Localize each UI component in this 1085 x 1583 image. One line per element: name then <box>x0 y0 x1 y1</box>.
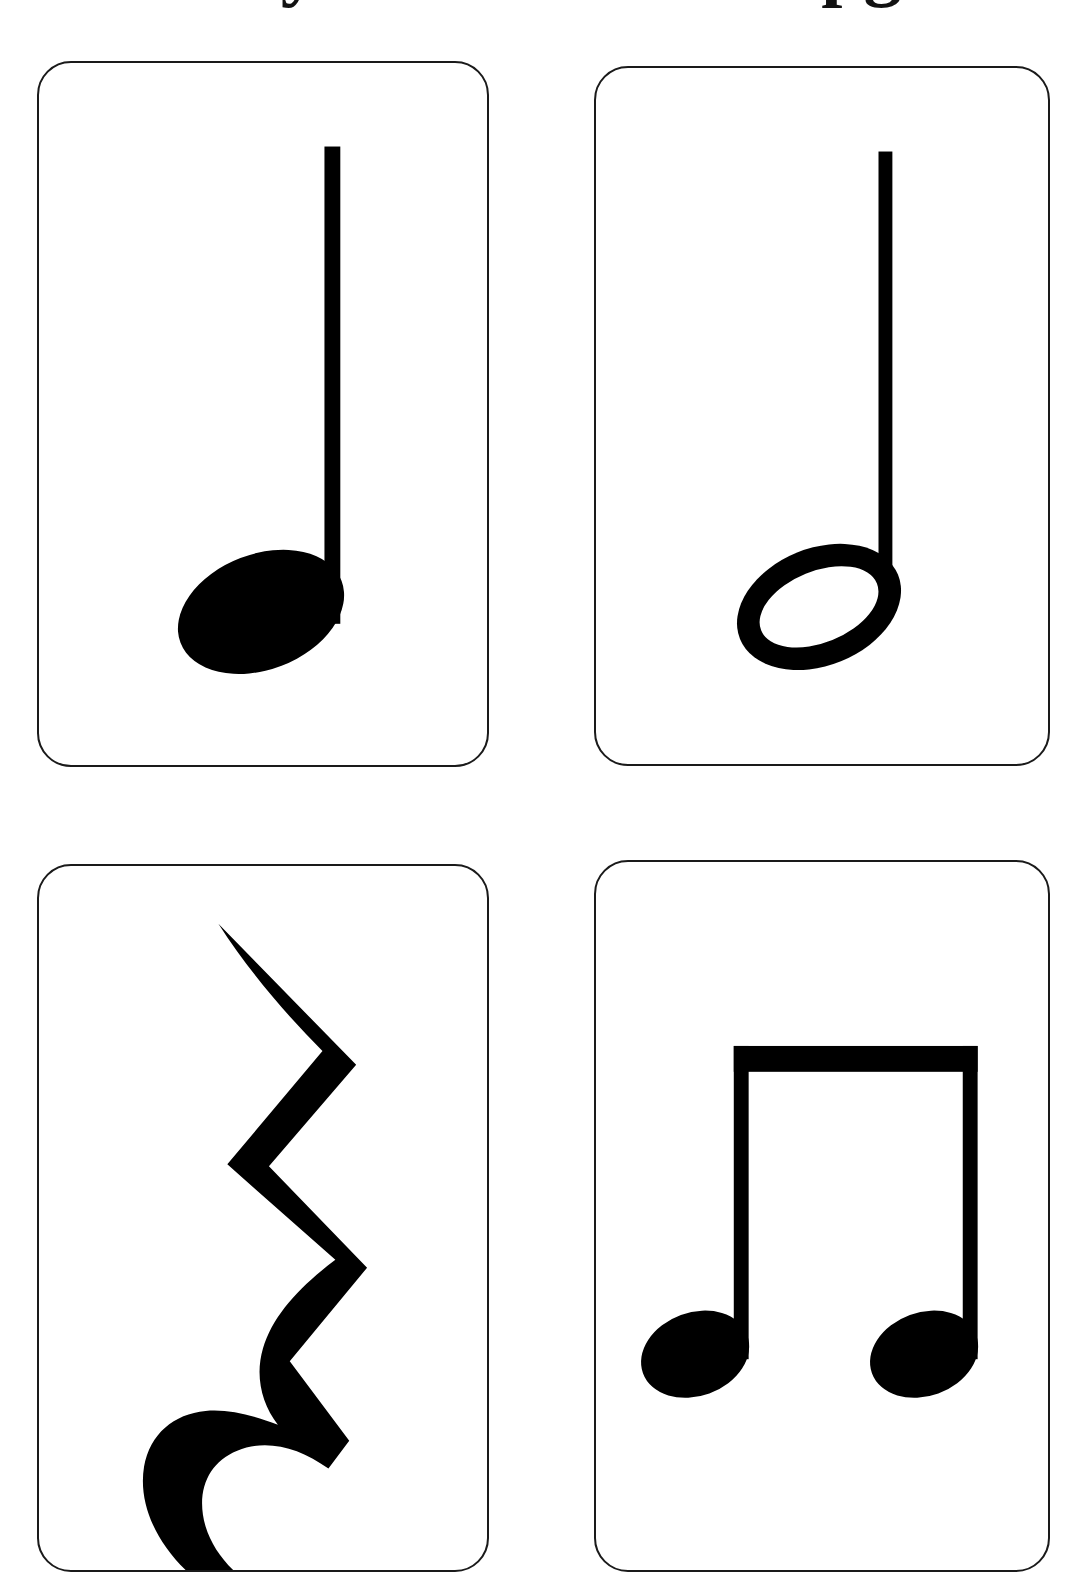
note-stem-right <box>963 1046 978 1359</box>
quarter-rest-glyph <box>143 924 367 1570</box>
flashcard-quarter-rest[interactable] <box>37 864 489 1572</box>
flashcard-half-note[interactable] <box>594 66 1050 766</box>
half-note-icon <box>596 68 1048 764</box>
beamed-eighth-notes-icon <box>596 862 1048 1570</box>
page-title: Rhythm flashcards pg <box>0 0 1085 4</box>
flashcard-sheet: Rhythm flashcards pg <box>0 0 1085 1583</box>
quarter-note-icon <box>39 63 487 765</box>
quarter-rest-icon <box>39 866 487 1570</box>
note-stem <box>879 152 893 619</box>
note-stem <box>324 147 340 624</box>
flashcard-beamed-eighth-notes[interactable] <box>594 860 1050 1572</box>
flashcard-quarter-note[interactable] <box>37 61 489 767</box>
note-stem-left <box>734 1046 749 1359</box>
page-title-clipped: Rhythm flashcards pg <box>0 0 1085 14</box>
note-beam <box>734 1046 978 1072</box>
